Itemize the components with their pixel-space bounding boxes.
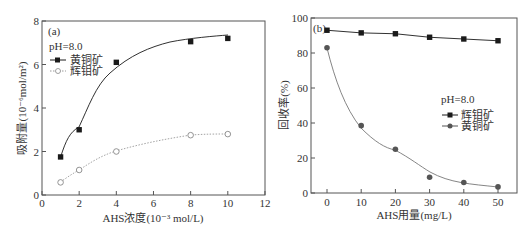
y-tick-label: 0 — [34, 189, 40, 201]
marker-circle — [324, 45, 330, 51]
y-axis-label-a: 吸附量(10⁻⁶mol/m²) — [15, 61, 29, 154]
y-tick-label: 4 — [34, 102, 40, 114]
panel-label-a: (a) — [48, 25, 61, 38]
marker-square — [324, 28, 329, 33]
y-axis-label-b: 回收率(%) — [277, 80, 291, 130]
marker-square — [225, 36, 230, 41]
x-tick-label: 0 — [324, 196, 330, 208]
fit-curve-molybdenite-a — [61, 134, 228, 182]
x-tick-label: 30 — [424, 196, 436, 208]
x-tick-label: 0 — [39, 197, 45, 209]
legend-b: 辉钼矿 黄铜矿 — [442, 108, 494, 132]
x-tick-label: 8 — [188, 197, 194, 209]
x-tick-label: 50 — [493, 196, 505, 208]
x-tick-label: 12 — [259, 197, 270, 209]
marker-square — [114, 60, 119, 65]
x-axis-label-b: AHS用量(mg/L) — [376, 209, 452, 222]
y-tick-label: 6 — [34, 59, 40, 71]
ph-annotation-a: pH=8.0 — [49, 40, 83, 52]
marker-square — [359, 30, 364, 35]
marker-square — [58, 154, 63, 159]
y-tick-label: 20 — [297, 152, 309, 164]
x-tick-label: 10 — [356, 196, 368, 208]
marker-square — [393, 31, 398, 36]
x-tick-label: 6 — [151, 197, 157, 209]
marker-square — [461, 36, 466, 41]
marker-open-circle — [114, 149, 120, 155]
legend-a: 黄铜矿 辉钼矿 — [50, 53, 103, 77]
chart-a: 024681012 02468 (a) pH=8.0 黄铜矿 辉钼矿 AHS浓度… — [15, 15, 270, 225]
panel-label-b: (b) — [313, 22, 326, 35]
line-molybdenite-b — [327, 30, 498, 41]
x-tick-label: 2 — [76, 197, 82, 209]
legend-b-item-2: 黄铜矿 — [461, 119, 494, 132]
marker-circle — [393, 146, 399, 152]
x-tick-label: 10 — [222, 197, 234, 209]
y-tick-label: 40 — [297, 117, 309, 129]
y-tick-label: 80 — [297, 47, 309, 59]
ph-annotation-b: pH=8.0 — [441, 93, 475, 105]
legend-a-item-2: 辉钼矿 — [70, 64, 103, 77]
x-tick-label: 4 — [114, 197, 120, 209]
y-tick-label: 100 — [292, 12, 309, 24]
x-tick-label: 40 — [458, 196, 470, 208]
x-axis-ticks-a: 024681012 — [39, 191, 270, 209]
y-tick-label: 8 — [34, 15, 40, 27]
y-tick-label: 2 — [34, 146, 40, 158]
x-axis-label-a: AHS浓度(10⁻³ mol/L) — [102, 211, 203, 225]
chart-b: 01020304050 020406080100 (b) pH=8.0 辉钼矿 … — [277, 12, 517, 222]
marker-circle — [358, 123, 364, 129]
y-tick-label: 60 — [297, 82, 309, 94]
y-axis-ticks-a: 02468 — [34, 15, 47, 201]
marker-square — [188, 39, 193, 44]
marker-circle — [427, 174, 433, 180]
x-tick-label: 20 — [390, 196, 402, 208]
marker-square — [495, 38, 500, 43]
marker-circle — [495, 184, 501, 190]
marker-square — [427, 35, 432, 40]
y-tick-label: 0 — [303, 187, 309, 199]
marker-square — [76, 127, 81, 132]
marker-open-circle — [188, 132, 194, 138]
marker-open-circle — [225, 131, 231, 137]
plot-frame-b — [311, 18, 517, 193]
marker-open-circle — [58, 180, 64, 186]
marker-circle — [461, 180, 467, 186]
figure: 024681012 02468 (a) pH=8.0 黄铜矿 辉钼矿 AHS浓度… — [0, 0, 532, 235]
marker-open-circle — [76, 167, 82, 173]
x-axis-ticks-b: 01020304050 — [324, 189, 504, 208]
